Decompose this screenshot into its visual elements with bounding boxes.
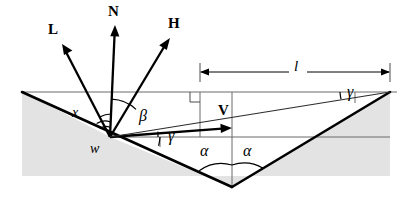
gamma-right-arc <box>340 92 341 99</box>
alpha-left-arc <box>199 164 232 171</box>
right-angle-marker <box>190 92 200 102</box>
label-w: w <box>90 142 99 156</box>
label-vector-V: V <box>218 103 229 118</box>
label-dimension-l: l <box>294 59 298 74</box>
label-alpha-right: α <box>243 143 251 159</box>
alpha-right-arc <box>232 163 263 168</box>
label-vector-L: L <box>48 22 58 37</box>
label-gamma-right: γ <box>347 84 353 100</box>
figure-root: L N H V x w l β γ γ α α <box>0 0 402 197</box>
angle-arc-cluster-w <box>100 114 111 117</box>
label-gamma-left: γ <box>168 128 174 144</box>
label-beta: β <box>139 108 147 124</box>
label-vector-N: N <box>108 4 119 19</box>
figure-diagram <box>0 0 402 197</box>
left-substrate-region <box>22 92 110 176</box>
label-vector-H: H <box>168 16 180 31</box>
label-x: x <box>72 106 78 120</box>
vector-N <box>110 25 119 137</box>
label-alpha-left: α <box>200 143 208 159</box>
